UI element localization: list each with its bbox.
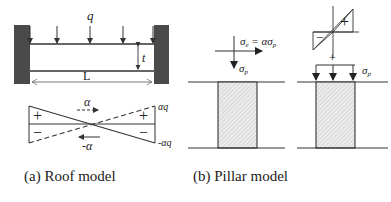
thickness-t-label: t bbox=[142, 51, 146, 65]
right-wall bbox=[154, 25, 169, 84]
stress-plus: + bbox=[340, 13, 349, 30]
alpha-q-label: αq bbox=[158, 101, 168, 112]
plus-between: + bbox=[329, 51, 336, 65]
caption-roof-model: (a) Roof model bbox=[24, 168, 116, 185]
load-q-label: q bbox=[87, 8, 94, 23]
pillar-right bbox=[316, 82, 355, 148]
minus-right: − bbox=[139, 124, 148, 141]
alpha-label: α bbox=[84, 95, 91, 109]
sigma-p-label: σp bbox=[239, 62, 248, 76]
neg-alpha-q-label: -αq bbox=[158, 137, 172, 148]
plus-right: + bbox=[139, 107, 148, 124]
sigma-p-right-label: σp bbox=[362, 64, 371, 78]
span-L-label: L bbox=[83, 69, 90, 83]
left-wall bbox=[14, 25, 30, 84]
neg-alpha-label: -α bbox=[82, 139, 93, 153]
moment-diagram bbox=[29, 106, 155, 143]
minus-left: − bbox=[33, 124, 42, 141]
load-arrows bbox=[30, 26, 153, 43]
equation-label: σe = ασp bbox=[240, 35, 277, 49]
plus-left: + bbox=[33, 107, 42, 124]
pillar-model-left bbox=[188, 36, 285, 148]
roof-model: q t L + − + − α -α αq -αq bbox=[14, 8, 172, 153]
pillar-left bbox=[218, 82, 257, 148]
stress-minus: − bbox=[316, 30, 323, 45]
caption-pillar-model: (b) Pillar model bbox=[193, 168, 288, 185]
